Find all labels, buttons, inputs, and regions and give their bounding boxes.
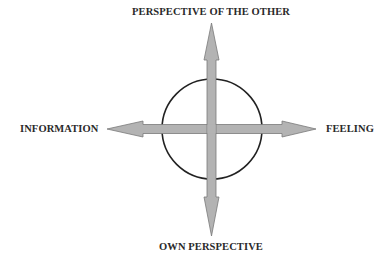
crossing-center bbox=[207, 125, 215, 133]
quadrant-diagram bbox=[0, 0, 389, 264]
